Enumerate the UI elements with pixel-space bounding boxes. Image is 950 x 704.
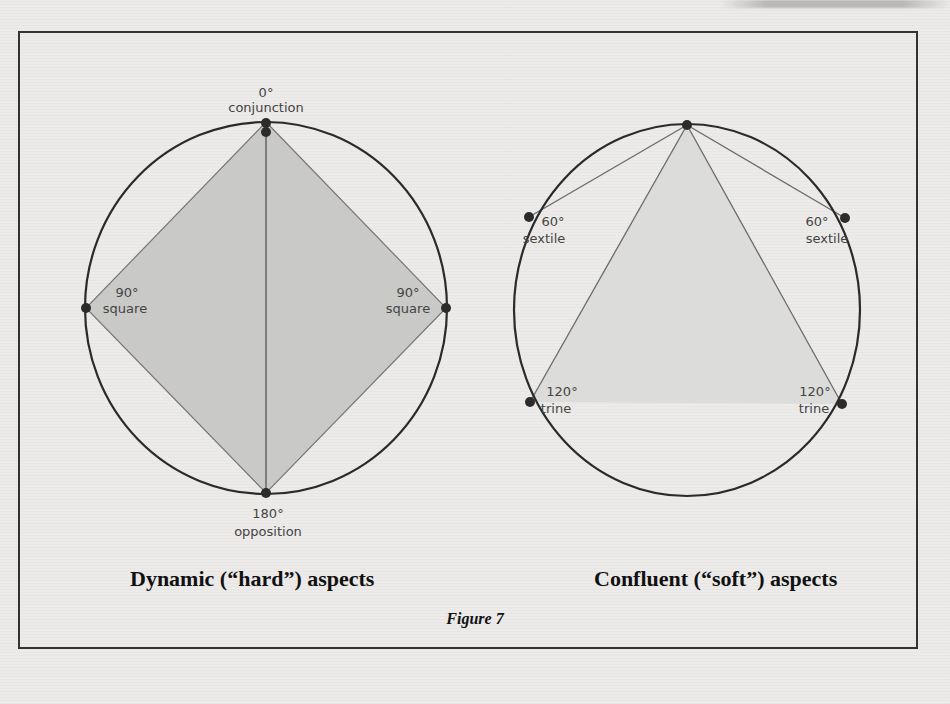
square-left-degree: 90°	[115, 285, 138, 300]
trine-left-degree: 120°	[546, 384, 577, 399]
sextile-right-name: sextile	[806, 231, 849, 246]
sextile-point-left	[524, 212, 534, 222]
sextile-left-name: sextile	[523, 231, 566, 246]
sextile-point-right	[840, 213, 850, 223]
conjunction-name: conjunction	[228, 100, 303, 115]
trine-point-right	[837, 399, 847, 409]
opposition-point	[261, 488, 271, 498]
square-point-right	[441, 303, 451, 313]
soft-aspects-caption: Confluent (“soft”) aspects	[594, 566, 837, 592]
sextile-left-degree: 60°	[541, 214, 564, 229]
trine-left-name: trine	[541, 401, 571, 416]
figure-number-label: Figure 7	[0, 610, 950, 628]
hard-aspects-diagram: 0° conjunction 90° square 90° square 180…	[81, 85, 451, 539]
conjunction-point	[261, 118, 271, 128]
conjunction-point-inner	[261, 127, 271, 137]
square-right-name: square	[386, 301, 430, 316]
trine-right-name: trine	[799, 401, 829, 416]
opposition-name: opposition	[234, 524, 302, 539]
aspects-diagram: 0° conjunction 90° square 90° square 180…	[0, 0, 950, 704]
trine-point-left	[525, 397, 535, 407]
trine-right-degree: 120°	[799, 384, 830, 399]
conjunction-degree: 0°	[259, 85, 274, 100]
square-left-name: square	[103, 301, 147, 316]
square-right-degree: 90°	[396, 285, 419, 300]
soft-aspects-diagram: 60° sextile 60° sextile 120° trine 120° …	[514, 120, 860, 496]
sextile-right-degree: 60°	[805, 214, 828, 229]
hard-aspects-caption: Dynamic (“hard”) aspects	[130, 566, 374, 592]
square-point-left	[81, 303, 91, 313]
origin-point	[682, 120, 692, 130]
opposition-degree: 180°	[252, 506, 283, 521]
